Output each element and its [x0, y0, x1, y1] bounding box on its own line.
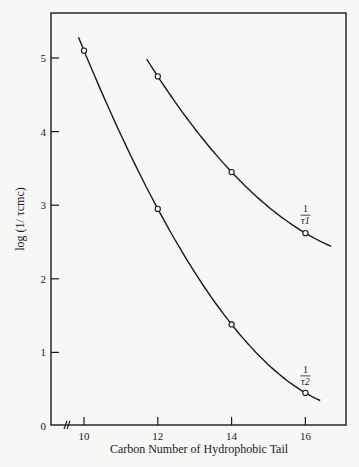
chart: 012345 10121416 1τ11τ2 Carbon Number of …: [0, 0, 359, 467]
x-axis-title: Carbon Number of Hydrophobic Tail: [110, 442, 289, 456]
curve-label-numerator: 1: [303, 203, 308, 214]
data-point-marker: [229, 322, 234, 327]
y-tick-label: 1: [41, 346, 47, 358]
data-point-marker: [303, 231, 308, 236]
x-axis-ticks: 10121416: [79, 417, 312, 442]
data-point-marker: [155, 74, 160, 79]
y-tick-label: 2: [41, 273, 47, 285]
x-tick-label: 14: [226, 430, 238, 442]
y-tick-label: 4: [41, 126, 47, 138]
curves: [79, 37, 332, 400]
x-tick-label: 12: [152, 430, 163, 442]
x-tick-label: 10: [79, 430, 91, 442]
data-point-marker: [303, 390, 308, 395]
curve-label-denominator: τ1: [301, 215, 310, 226]
data-points: [81, 48, 308, 395]
curve-label-denominator: τ2: [301, 376, 310, 387]
y-tick-label: 5: [41, 52, 47, 64]
curve-label-numerator: 1: [303, 364, 308, 375]
y-axis-title: log (1/ τcmc): [13, 187, 27, 250]
x-tick-label: 16: [300, 430, 312, 442]
data-point-marker: [155, 206, 160, 211]
y-tick-label: 3: [41, 199, 47, 211]
y-tick-label: 0: [41, 420, 47, 432]
y-axis-ticks: 012345: [41, 52, 60, 432]
data-point-marker: [229, 169, 234, 174]
data-point-marker: [81, 48, 86, 53]
